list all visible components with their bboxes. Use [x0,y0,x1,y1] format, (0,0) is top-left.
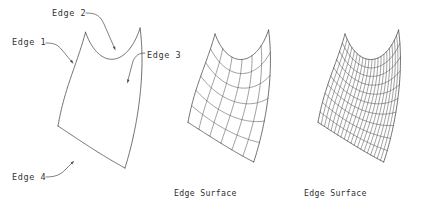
caption-coarse-title: Edge Surface [174,188,284,199]
label-edge-1: Edge 1 [12,37,46,48]
panel-dense-mesh-surface [318,30,400,162]
label-edge-4: Edge 4 [12,172,46,183]
caption-dense-mesh: Edge Surface Surftab1= 20(User) Surftab2… [304,166,398,210]
panel-outline-surface [58,28,142,168]
edge-surface-figure: Edge 1 Edge 2 Edge 3 Edge 4 Edge Surface… [0,0,431,210]
caption-coarse-mesh: Edge Surface Surftab1= 6(Default) Surfta… [174,166,284,210]
caption-dense-title: Edge Surface [304,188,398,199]
panel-coarse-mesh-surface [188,30,270,162]
label-edge-2: Edge 2 [52,8,86,19]
label-edge-3: Edge 3 [147,50,181,61]
leader-lines-group [46,13,145,177]
